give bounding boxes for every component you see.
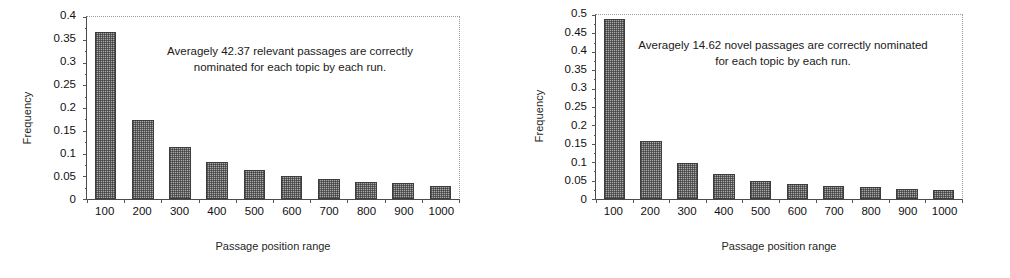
- y-axis-tick-label: 0.1: [60, 148, 76, 160]
- y-axis-tick-label: 0.2: [571, 120, 587, 132]
- y-axis-minor-tick-mark: [594, 43, 596, 44]
- y-axis-tick-label: 0.05: [565, 176, 587, 188]
- bar: [933, 190, 954, 199]
- x-axis-tick-label: 100: [595, 206, 632, 218]
- x-axis-tick-label: 800: [348, 206, 385, 218]
- y-axis-tick-label: 0.45: [565, 27, 587, 39]
- x-axis-tick-mark: [199, 199, 200, 203]
- x-axis-tick-label: 300: [161, 206, 198, 218]
- bar: [132, 120, 154, 199]
- x-axis-tick-mark: [310, 199, 311, 203]
- y-axis-minor-tick-mark: [594, 135, 596, 136]
- x-axis-tick-label: 500: [742, 206, 779, 218]
- x-axis-tick-label: 300: [669, 206, 706, 218]
- x-axis-tick-mark: [816, 199, 817, 203]
- y-axis-tick-label: 0.25: [54, 79, 76, 91]
- bar: [604, 19, 625, 199]
- y-axis-tick-mark: [592, 144, 596, 145]
- y-axis-title: Frequency: [533, 61, 545, 171]
- bar: [860, 187, 881, 199]
- x-axis-tick-label: 500: [236, 206, 273, 218]
- y-axis-minor-tick-mark: [594, 116, 596, 117]
- y-axis-tick-label: 0.35: [565, 64, 587, 76]
- y-axis-tick-label: 0.15: [565, 138, 587, 150]
- y-axis-tick-mark: [592, 162, 596, 163]
- y-axis-minor-tick-mark: [85, 142, 87, 143]
- x-axis-tick-mark: [925, 199, 926, 203]
- y-axis-tick-label: 0.05: [54, 171, 76, 183]
- y-axis-tick-mark: [592, 52, 596, 53]
- x-axis-tick-mark: [236, 199, 237, 203]
- x-axis-tick-mark: [852, 199, 853, 203]
- bar: [750, 181, 771, 199]
- y-axis-minor-tick-mark: [594, 98, 596, 99]
- x-axis-tick-mark: [124, 199, 125, 203]
- y-axis-tick-mark: [592, 125, 596, 126]
- bar: [95, 32, 117, 199]
- chart-annotation-text: Averagely 14.62 novel passages are corre…: [633, 38, 933, 69]
- y-axis-minor-tick-mark: [594, 171, 596, 172]
- x-axis-tick-label: 900: [889, 206, 926, 218]
- y-axis-minor-tick-mark: [85, 74, 87, 75]
- x-axis-tick-label: 400: [198, 206, 235, 218]
- bar: [318, 179, 340, 199]
- bar: [896, 189, 917, 199]
- y-axis-tick-labels: 0.50.450.40.350.30.250.20.150.10.050: [547, 14, 587, 200]
- y-axis-tick-label: 0.4: [571, 45, 587, 57]
- y-axis-minor-tick-mark: [85, 188, 87, 189]
- y-axis-minor-tick-mark: [85, 51, 87, 52]
- bar: [169, 147, 191, 199]
- x-axis-tick-label: 600: [273, 206, 310, 218]
- x-axis-tick-mark: [596, 199, 597, 203]
- y-axis-tick-mark: [592, 15, 596, 16]
- x-axis-tick-label: 1000: [423, 206, 460, 218]
- chart-annotation-text: Averagely 42.37 relevant passages are co…: [140, 44, 440, 75]
- y-axis-minor-tick-mark: [594, 153, 596, 154]
- bar: [355, 182, 377, 199]
- y-axis-tick-label: 0.15: [54, 125, 76, 137]
- y-axis-minor-tick-mark: [85, 28, 87, 29]
- x-axis-tick-mark: [459, 199, 460, 203]
- y-axis-tick-label: 0.5: [571, 8, 587, 20]
- figure-container: Frequency 0.40.350.30.250.20.150.10.050 …: [0, 0, 1010, 278]
- y-axis-minor-tick-mark: [594, 24, 596, 25]
- y-axis-tick-mark: [592, 89, 596, 90]
- y-axis-tick-mark: [83, 108, 87, 109]
- x-axis-tick-mark: [779, 199, 780, 203]
- y-axis-tick-label: 0.1: [571, 157, 587, 169]
- y-axis-tick-mark: [592, 181, 596, 182]
- y-axis-tick-label: 0.35: [54, 33, 76, 45]
- x-axis-tick-mark: [962, 199, 963, 203]
- x-axis-tick-labels: 1002003004005006007008009001000: [595, 206, 963, 218]
- x-axis-tick-mark: [422, 199, 423, 203]
- y-axis-tick-mark: [592, 70, 596, 71]
- x-axis-tick-mark: [633, 199, 634, 203]
- x-axis-tick-label: 200: [123, 206, 160, 218]
- y-axis-tick-label: 0.3: [571, 83, 587, 95]
- chart-panel-novel-passages: Frequency 0.50.450.40.350.30.250.20.150.…: [505, 0, 1010, 278]
- bar: [640, 141, 661, 199]
- y-axis-tick-mark: [83, 40, 87, 41]
- x-axis-tick-mark: [161, 199, 162, 203]
- y-axis-tick-label: 0: [70, 194, 76, 206]
- y-axis-tick-mark: [83, 85, 87, 86]
- bar: [281, 176, 303, 199]
- y-axis-tick-label: 0.4: [60, 10, 76, 22]
- bar-slot: [596, 15, 633, 199]
- x-axis-title: Passage position range: [595, 240, 963, 252]
- y-axis-tick-mark: [592, 107, 596, 108]
- bar: [206, 162, 228, 199]
- y-axis-minor-tick-mark: [594, 61, 596, 62]
- y-axis-minor-tick-mark: [594, 190, 596, 191]
- y-axis-tick-mark: [83, 176, 87, 177]
- x-axis-tick-mark: [889, 199, 890, 203]
- y-axis-tick-labels: 0.40.350.30.250.20.150.10.050: [36, 16, 76, 200]
- x-axis-tick-label: 700: [310, 206, 347, 218]
- x-axis-tick-label: 600: [779, 206, 816, 218]
- x-axis-tick-mark: [87, 199, 88, 203]
- x-axis-tick-mark: [706, 199, 707, 203]
- bar: [787, 184, 808, 199]
- x-axis-tick-mark: [385, 199, 386, 203]
- bar: [392, 183, 414, 199]
- y-axis-tick-label: 0.2: [60, 102, 76, 114]
